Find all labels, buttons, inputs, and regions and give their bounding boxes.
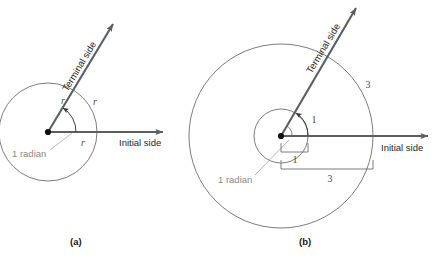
panel-b: 1 1 3 3 Terminal side Initial side 1 rad… — [189, 8, 428, 228]
panel-a-terminal-side-ray — [48, 24, 113, 132]
panel-b-inner-radius-label: 1 — [293, 154, 298, 165]
panel-b-outer-arc-label: 3 — [366, 79, 371, 90]
panel-b-initial-side-label: Initial side — [381, 142, 423, 153]
panel-a-caption: (a) — [70, 236, 82, 247]
panel-a-vertex-dot — [45, 129, 51, 135]
panel-a: r r r Terminal side Initial side 1 radia… — [0, 24, 163, 181]
radian-measure-figure: r r r Terminal side Initial side 1 radia… — [0, 0, 436, 261]
panel-a-angle-arc — [63, 108, 76, 132]
panel-a-radius-label-terminal: r — [61, 95, 65, 106]
panel-a-terminal-side-label: Terminal side — [60, 39, 98, 93]
panel-b-vertex-dot — [278, 133, 284, 139]
panel-b-angle-label: 1 radian — [218, 174, 252, 185]
panel-b-inner-arc-label: 1 — [312, 114, 317, 125]
panel-a-angle-leader-line — [50, 133, 72, 150]
panel-b-angle-leader-line — [255, 140, 289, 175]
panel-a-radius-label-initial: r — [81, 137, 85, 148]
panel-b-terminal-side-ray — [281, 8, 356, 136]
panel-b-inner-arc — [296, 113, 308, 136]
panel-b-outer-radius-label: 3 — [328, 173, 333, 184]
panel-b-caption: (b) — [299, 236, 311, 247]
panel-a-radius-label-arc: r — [93, 96, 97, 107]
panel-b-angle-tick — [287, 126, 292, 136]
panel-a-angle-label: 1 radian — [12, 148, 46, 159]
figure-canvas: r r r Terminal side Initial side 1 radia… — [0, 0, 436, 261]
panel-a-initial-side-label: Initial side — [119, 137, 161, 148]
